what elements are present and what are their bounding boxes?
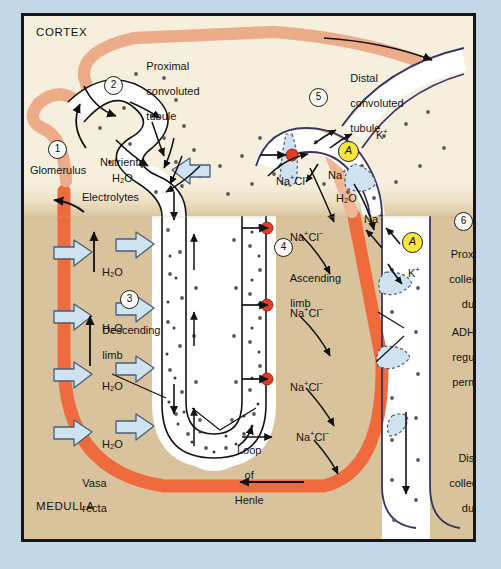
- nacl-label-4: Na+Cl−: [290, 380, 323, 393]
- adh-permeability-label: ADH regulated permeability: [434, 314, 476, 400]
- dcd-line-3: duct: [462, 502, 476, 514]
- pct-line-1: Proximal: [146, 60, 189, 72]
- figure-canvas: CORTEX MEDULLA 1 Glomerulus 2 Proximal c…: [0, 0, 501, 569]
- loop-line-1: Loop: [237, 444, 261, 456]
- water-label-descending-3: H2O: [102, 380, 123, 394]
- adh-line-2: regulated: [452, 351, 476, 363]
- cortex-region-label: CORTEX: [36, 26, 87, 39]
- pcd-line-2: collecting: [449, 273, 476, 285]
- water-label-pct: H2O: [112, 172, 133, 186]
- nacl-label-2: Na+Cl−: [290, 230, 323, 243]
- sodium-label-dct: Na+: [328, 168, 346, 181]
- glomerulus-label: Glomerulus: [30, 164, 86, 176]
- pcd-line-1: Proximal: [451, 248, 476, 260]
- dct-line-1: Distal: [350, 72, 378, 84]
- water-label-descending-1: H2O: [102, 266, 123, 280]
- nacl-label-3: Na+Cl−: [290, 306, 323, 319]
- distal-collecting-duct-label: Distal collecting duct: [424, 440, 476, 526]
- proximal-collecting-duct-label: Proximal collecting duct: [422, 236, 476, 322]
- water-label-dct: H2O: [336, 192, 357, 206]
- step-number-3: 3: [120, 290, 139, 309]
- water-label-descending-4: H2O: [102, 438, 123, 452]
- vasa-recta-label: Vasa recta: [64, 465, 107, 527]
- ascending-line-1: Ascending: [290, 272, 341, 284]
- pct-line-3: tubule: [146, 110, 176, 122]
- step-number-2: 2: [104, 76, 123, 95]
- pct-line-2: convoluted: [146, 85, 199, 97]
- dcd-line-1: Distal: [458, 452, 476, 464]
- step-number-1: 1: [48, 140, 67, 159]
- dct-line-2: convoluted: [350, 97, 403, 109]
- nutrients-label: Nutrients: [100, 156, 144, 168]
- diagram-frame: CORTEX MEDULLA 1 Glomerulus 2 Proximal c…: [21, 13, 476, 542]
- potassium-label-pcd: K+: [408, 266, 420, 279]
- distal-convoluted-tubule-label: Distal convoluted tubule: [332, 60, 404, 146]
- aldosterone-pump-dct[interactable]: A: [338, 141, 359, 162]
- loop-of-henle-label: Loop of Henle: [210, 432, 270, 518]
- descending-line-2: limb: [102, 349, 122, 361]
- electrolytes-label: Electrolytes: [82, 191, 139, 203]
- step-number-6: 6: [454, 212, 473, 231]
- loop-line-2: of: [245, 469, 254, 481]
- loop-line-3: Henle: [235, 494, 264, 506]
- nacl-label-5: Na+Cl−: [296, 430, 329, 443]
- proximal-convoluted-tubule-label: Proximal convoluted tubule: [128, 48, 200, 134]
- dcd-line-2: collecting: [449, 477, 476, 489]
- adh-line-3: permeability: [452, 376, 476, 388]
- pcd-line-3: duct: [462, 298, 476, 310]
- sodium-label-pcd: Na+: [364, 212, 382, 225]
- vasa-line-1: Vasa: [82, 477, 106, 489]
- nacl-label-1: Na+Cl−: [276, 174, 309, 187]
- potassium-label-dct: K+: [376, 128, 388, 141]
- water-label-descending-2: H2O: [102, 322, 123, 336]
- aldosterone-pump-pcd[interactable]: A: [402, 232, 423, 253]
- adh-line-1: ADH: [452, 326, 475, 338]
- vasa-line-2: recta: [82, 502, 106, 514]
- step-number-5: 5: [309, 88, 328, 107]
